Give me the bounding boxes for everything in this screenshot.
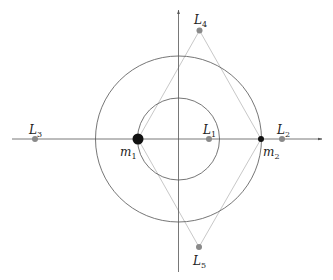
label-m2: m2 [263,145,279,161]
triangle-line-L4-m1 [138,31,200,140]
label-L2: L2 [276,123,290,139]
triangle-line-L5-m1 [138,139,199,247]
label-L4: L4 [193,13,207,29]
mass-m2 [258,136,264,142]
coordinate-axes [12,10,322,272]
lagrange-diagram: m1m2L1L2L3L4L5 [0,0,333,280]
label-L1: L1 [202,123,216,139]
label-m1: m1 [120,145,136,161]
label-L3: L3 [28,123,42,139]
triangle-line-L5-m2 [199,139,261,247]
labels: m1m2L1L2L3L4L5 [28,13,290,270]
lagrange-point-L5 [196,244,202,250]
mass-m1 [133,134,144,145]
label-L5: L5 [192,254,206,270]
